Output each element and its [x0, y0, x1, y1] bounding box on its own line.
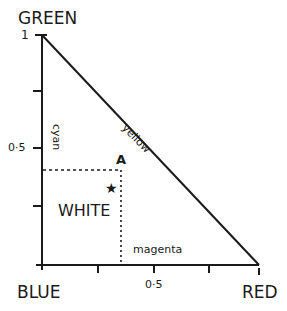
edge-label-cyan: cyan [51, 124, 62, 150]
y-tick-label-0.5: 0·5 [8, 142, 26, 153]
corner-label-blue: BLUE [17, 284, 60, 301]
white-point-label: WHITE [58, 203, 110, 219]
point-a-label: A [116, 153, 126, 166]
edge-label-magenta: magenta [133, 244, 182, 255]
corner-label-green: GREEN [18, 10, 77, 27]
y-tick-label-1: 1 [21, 29, 29, 41]
corner-label-red: RED [242, 284, 278, 301]
hypotenuse-line [42, 35, 259, 265]
x-tick-label-0.5: 0·5 [145, 279, 163, 290]
white-point-star-icon: ★ [105, 181, 118, 195]
